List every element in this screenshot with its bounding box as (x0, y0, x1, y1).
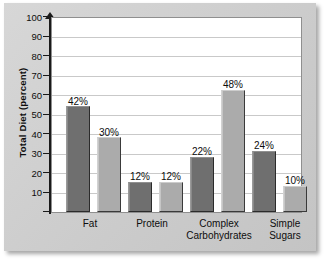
y-tick-label-10: 10 (14, 187, 42, 198)
y-tick-label-100: 100 (14, 12, 42, 23)
plot-area: 42% 30% 12% 12% 22% 48% 24% 10% (51, 17, 302, 213)
bar-complex-light[interactable] (221, 90, 245, 212)
y-tick-label-30: 30 (14, 148, 42, 159)
category-label-simple-line2: Sugars (254, 230, 316, 243)
bar-label-protein-light: 12% (149, 171, 193, 182)
y-tick-label-60: 60 (14, 90, 42, 101)
bar-label-complex-light: 48% (211, 79, 255, 90)
bar-label-simple-dark: 24% (242, 140, 286, 151)
y-axis-tick-labels: 100 90 80 70 60 50 40 30 20 10 (8, 3, 42, 213)
bar-fat-dark[interactable] (66, 106, 90, 212)
bar-label-complex-dark: 22% (180, 146, 224, 157)
category-label-complex-line1: Complex (179, 218, 259, 231)
y-tick-label-80: 80 (14, 51, 42, 62)
chart-screenshot: Total Diet (percent) 100 90 80 70 60 50 … (0, 0, 328, 270)
y-tick-label-40: 40 (14, 129, 42, 140)
bar-protein-light[interactable] (159, 182, 183, 212)
category-label-protein: Protein (121, 218, 183, 231)
bar-label-simple-light: 10% (273, 175, 317, 186)
category-label-fat: Fat (59, 218, 121, 231)
y-tick-label-90: 90 (14, 31, 42, 42)
bar-label-fat-dark: 42% (56, 96, 100, 107)
bar-label-fat-light: 30% (87, 127, 131, 138)
bar-protein-dark[interactable] (128, 182, 152, 212)
y-tick-label-50: 50 (14, 109, 42, 120)
bar-series: 42% 30% 12% 12% 22% 48% 24% 10% (52, 18, 301, 212)
y-tick-label-20: 20 (14, 168, 42, 179)
chart-card: Total Diet (percent) 100 90 80 70 60 50 … (4, 3, 316, 251)
x-axis-category-labels: Fat Protein Complex Carbohydrates Simple… (51, 216, 302, 252)
bar-simple-light[interactable] (283, 186, 307, 212)
bar-complex-dark[interactable] (190, 157, 214, 212)
category-label-simple-line1: Simple (254, 218, 316, 231)
y-tick-label-70: 70 (14, 70, 42, 81)
